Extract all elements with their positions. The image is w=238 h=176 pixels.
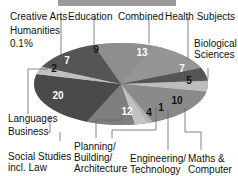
value-10: 10 xyxy=(171,95,183,106)
value-7-education: 7 xyxy=(64,55,70,66)
label-humanities-pct: 0.1% xyxy=(10,38,33,49)
label-education: Education xyxy=(68,11,112,22)
label-social-1: Social Studies xyxy=(8,151,71,162)
value-5: 5 xyxy=(186,75,192,86)
value-7-health: 7 xyxy=(179,63,185,74)
label-humanities: Humanities xyxy=(10,25,60,36)
label-social-2: incl. Law xyxy=(8,162,47,173)
value-13: 13 xyxy=(136,47,148,58)
value-9: 9 xyxy=(93,44,99,55)
value-20: 20 xyxy=(52,90,64,101)
label-maths-1: Maths & xyxy=(188,153,225,164)
value-2: 2 xyxy=(51,63,57,74)
label-languages: Languages xyxy=(8,113,58,124)
label-engineering-1: Engineering/ xyxy=(130,153,186,164)
label-planning-1: Planning/ xyxy=(74,141,116,152)
value-4: 4 xyxy=(146,107,152,118)
label-planning-2: Building/ xyxy=(74,152,112,163)
label-creative-arts: Creative Arts xyxy=(10,11,67,22)
label-business: Business xyxy=(8,126,49,137)
value-12: 12 xyxy=(121,106,133,117)
label-biological-1: Biological xyxy=(194,38,237,49)
label-planning-3: Architecture xyxy=(74,163,127,174)
label-maths-2: Computer xyxy=(188,164,232,175)
value-1: 1 xyxy=(158,102,164,113)
label-health-subjects: Health Subjects xyxy=(165,11,235,22)
label-combined: Combined xyxy=(118,11,164,22)
label-biological-2: Sciences xyxy=(194,49,235,60)
label-engineering-2: Technology xyxy=(130,164,181,175)
